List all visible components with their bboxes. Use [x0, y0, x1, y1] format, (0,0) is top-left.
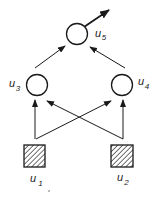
label-u4: u4: [138, 75, 150, 91]
edge-u5-output: [84, 10, 109, 27]
node-u2: [111, 145, 133, 167]
edge-u1-u4: [36, 101, 111, 139]
label-u2: u2: [117, 171, 129, 187]
edge-u3-u5: [35, 46, 65, 68]
node-u1: [24, 145, 45, 167]
label-u1: u1: [30, 172, 43, 188]
node-u3: [27, 75, 48, 96]
edge-u4-u5: [90, 47, 125, 68]
network-diagram: u5 u3 u4 u1 u2: [0, 0, 160, 199]
edge-u2-u3: [47, 101, 123, 139]
label-u3: u3: [9, 77, 21, 93]
node-u5: [67, 24, 88, 45]
label-u5: u5: [95, 27, 107, 42]
node-u4: [112, 75, 133, 96]
stray-dot: [48, 190, 50, 192]
